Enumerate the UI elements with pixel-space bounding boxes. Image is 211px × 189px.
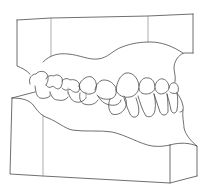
upper-teeth: [29, 71, 178, 99]
dental-model-drawing: Line drawing of a dental cast model show…: [0, 0, 211, 189]
dental-model-illustration: [0, 0, 211, 189]
lower-teeth: [35, 86, 183, 117]
lower-cast-base: [10, 92, 197, 183]
